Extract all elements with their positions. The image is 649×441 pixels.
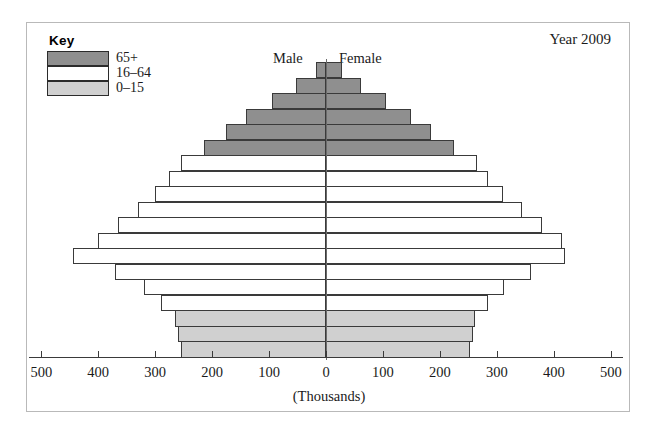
pyramid-bar-female [326,248,565,264]
pyramid-bar-female [326,62,342,78]
pyramid-bar-male [138,202,326,218]
pyramid-bar-male [181,341,326,357]
pyramid-bar-male [204,140,326,156]
center-axis-line [326,59,327,360]
x-axis-tick [212,351,213,357]
pyramid-bar-female [326,310,475,326]
x-axis-title: (Thousands) [27,388,631,405]
population-pyramid-plot: 5004003002001000100200300400500 (Thousan… [27,23,631,413]
pyramid-bar-female [326,155,477,171]
pyramid-bar-female [326,264,531,280]
x-axis-tick [326,351,327,357]
x-axis-tick-label: 500 [587,364,635,381]
x-axis-tick-label: 100 [245,364,293,381]
x-axis-tick [440,351,441,357]
x-axis-tick [98,351,99,357]
pyramid-bar-male [155,186,326,202]
x-axis-line [29,357,623,358]
pyramid-bar-male [98,233,326,249]
x-axis-tick-label: 0 [302,364,350,381]
x-axis-tick [383,351,384,357]
x-axis-tick-label: 200 [416,364,464,381]
pyramid-bar-female [326,93,386,109]
x-axis-tick [41,351,42,357]
x-axis-tick-label: 400 [74,364,122,381]
pyramid-bar-male [296,78,326,94]
pyramid-bar-male [169,171,326,187]
x-axis-tick-label: 200 [188,364,236,381]
pyramid-bar-female [326,140,454,156]
x-axis-tick [269,351,270,357]
pyramid-bar-male [144,279,326,295]
chart-frame: Key 65+16–640–15 Male Female Year 2009 5… [26,22,630,412]
pyramid-bar-male [115,264,326,280]
pyramid-bar-male [175,310,326,326]
pyramid-bar-female [326,202,522,218]
pyramid-bar-female [326,295,488,311]
pyramid-bar-female [326,279,504,295]
pyramid-bar-male [118,217,326,233]
pyramid-bar-female [326,78,361,94]
x-axis-tick-label: 100 [359,364,407,381]
pyramid-bar-male [181,155,326,171]
pyramid-bar-female [326,124,431,140]
x-axis-tick [554,351,555,357]
pyramid-bar-female [326,233,562,249]
x-axis-tick-label: 300 [131,364,179,381]
x-axis-tick-label: 500 [17,364,65,381]
pyramid-bar-male [226,124,326,140]
pyramid-bar-male [272,93,326,109]
x-axis-tick-label: 400 [530,364,578,381]
pyramid-bar-male [161,295,326,311]
pyramid-bar-female [326,109,411,125]
x-axis-tick-label: 300 [473,364,521,381]
x-axis-tick [497,351,498,357]
pyramid-bar-male [73,248,326,264]
pyramid-bar-female [326,186,503,202]
bar-layer [27,23,631,413]
pyramid-bar-male [178,326,326,342]
x-axis-tick [155,351,156,357]
pyramid-bar-female [326,217,542,233]
pyramid-bar-male [246,109,326,125]
pyramid-bar-male [316,62,326,78]
pyramid-bar-female [326,171,488,187]
pyramid-bar-female [326,326,473,342]
x-axis-tick [611,351,612,357]
pyramid-bar-female [326,341,470,357]
